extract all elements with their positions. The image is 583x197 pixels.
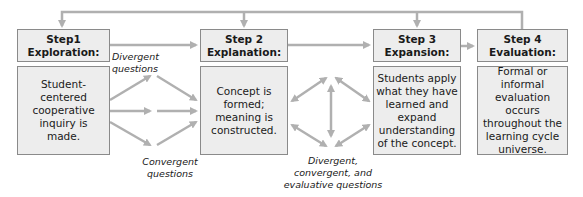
step1-header: Step1Exploration: bbox=[17, 29, 110, 62]
divergent-questions-label: Divergent questions bbox=[112, 51, 162, 75]
convergent-questions-label: Convergent questions bbox=[140, 156, 200, 180]
step1-subtitle: Exploration: bbox=[27, 46, 99, 59]
step4-subtitle: Evaluation: bbox=[489, 46, 556, 59]
step3-subtitle: Expansion: bbox=[385, 46, 450, 59]
step2-header: Step 2Explanation: bbox=[200, 29, 288, 62]
step3-title: Step 3 bbox=[385, 33, 450, 46]
step3-header: Step 3Expansion: bbox=[373, 29, 461, 62]
step4-title: Step 4 bbox=[489, 33, 556, 46]
step2-description: Concept is formed; meaning is constructe… bbox=[211, 85, 277, 137]
step3-body: Students apply what they have learned an… bbox=[373, 66, 461, 155]
step4-body: Formal or informal evaluation occurs thr… bbox=[477, 66, 568, 155]
step3-description: Students apply what they have learned an… bbox=[376, 72, 458, 150]
learning-cycle-diagram: Step1Exploration: Student-centered coope… bbox=[0, 0, 583, 197]
step2-subtitle: Explanation: bbox=[207, 46, 281, 59]
step1-description: Student-centered cooperative inquiry is … bbox=[22, 78, 105, 143]
step1-title: Step1 bbox=[27, 33, 99, 46]
feedback-line bbox=[62, 12, 522, 29]
step2-title: Step 2 bbox=[207, 33, 281, 46]
step4-header: Step 4Evaluation: bbox=[477, 29, 568, 62]
mixed-questions-label: Divergent, convergent, and evaluative qu… bbox=[283, 155, 383, 191]
step4-description: Formal or informal evaluation occurs thr… bbox=[480, 65, 565, 156]
step2-body: Concept is formed; meaning is constructe… bbox=[200, 66, 288, 155]
step1-body: Student-centered cooperative inquiry is … bbox=[17, 66, 110, 155]
